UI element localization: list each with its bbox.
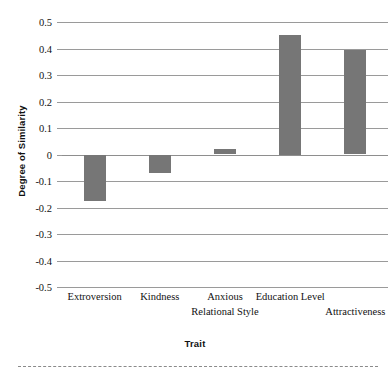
y-tick-mark [57, 234, 62, 235]
y-tick-mark [57, 22, 62, 23]
y-tick-label: 0 [6, 149, 52, 160]
y-tick-label: 0.3 [6, 70, 52, 81]
gridline [62, 155, 388, 156]
bar [214, 149, 236, 154]
y-tick-mark [57, 102, 62, 103]
y-tick-mark [57, 181, 62, 182]
gridline [62, 287, 388, 288]
x-tick-label-line1: Education Level [256, 289, 325, 304]
gridline [62, 261, 388, 262]
y-tick-mark [57, 287, 62, 288]
x-axis-title: Trait [0, 338, 390, 349]
y-tick-mark [57, 155, 62, 156]
x-tick-label-line2: Relational Style [191, 304, 258, 319]
gridline [62, 22, 388, 23]
gridline [62, 49, 388, 50]
x-axis-category-labels: ExtroversionKindnessAnxiousRelational St… [0, 289, 390, 329]
x-tick-label-line1: Kindness [140, 289, 179, 304]
x-tick-label: AnxiousRelational Style [191, 289, 258, 319]
y-tick-mark [57, 208, 62, 209]
gridline [62, 102, 388, 103]
y-tick-label: 0.4 [6, 43, 52, 54]
x-tick-label-line2: Attractiveness [325, 304, 385, 319]
y-tick-label: 0.5 [6, 17, 52, 28]
gridline [62, 128, 388, 129]
y-tick-label: -0.2 [6, 202, 52, 213]
y-tick-label: -0.1 [6, 176, 52, 187]
x-tick-label-line1 [325, 289, 385, 304]
gridline [62, 75, 388, 76]
x-tick-label: Extroversion [67, 289, 121, 304]
y-tick-label: -0.3 [6, 229, 52, 240]
y-tick-mark [57, 75, 62, 76]
x-tick-label: Education Level [256, 289, 325, 304]
bar [279, 35, 301, 154]
bar [84, 155, 106, 201]
x-tick-label: Kindness [140, 289, 179, 304]
gridline [62, 234, 388, 235]
x-tick-label-line1: Extroversion [67, 289, 121, 304]
x-tick-label: Attractiveness [325, 289, 385, 319]
gridline [62, 208, 388, 209]
y-tick-label: -0.4 [6, 255, 52, 266]
y-tick-label: 0.1 [6, 123, 52, 134]
bar [149, 155, 171, 174]
bar-chart-figure: Degree of Similarity 0.50.40.30.20.10-0.… [0, 0, 390, 378]
y-tick-mark [57, 49, 62, 50]
y-tick-label: 0.2 [6, 96, 52, 107]
plot-area: 0.50.40.30.20.10-0.1-0.2-0.3-0.4-0.5 [62, 22, 388, 287]
y-tick-mark [57, 261, 62, 262]
y-tick-mark [57, 128, 62, 129]
x-tick-label-line1: Anxious [191, 289, 258, 304]
bar [344, 50, 366, 155]
gridline [62, 181, 388, 182]
bottom-dashed-rule [18, 366, 378, 367]
